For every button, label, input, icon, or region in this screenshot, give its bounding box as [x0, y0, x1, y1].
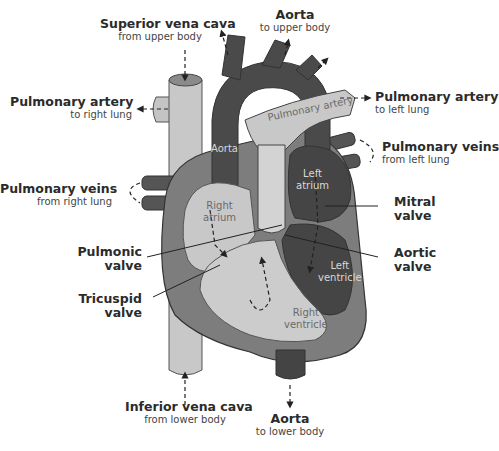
label-right-atrium: Right atrium — [203, 200, 236, 223]
label-aorta-lower: Aorta to lower body — [240, 412, 340, 438]
label-mitral-valve: Mitral valve — [394, 195, 436, 224]
label-pulmonary-veins-right: Pulmonary veins from right lung — [0, 182, 112, 208]
pulmonic-valve-line1: Pulmonic — [70, 245, 142, 259]
mitral-valve-line2: valve — [394, 209, 436, 223]
label-pulmonary-artery-right: Pulmonary artery to right lung — [10, 95, 132, 121]
pulmonic-valve-line2: valve — [70, 259, 142, 273]
superior-vena-cava-title: Superior vena cava — [100, 17, 220, 31]
tricuspid-valve-line2: valve — [70, 306, 142, 320]
aorta-lower-title: Aorta — [240, 412, 340, 426]
right-ventricle-line1: Right — [293, 307, 319, 318]
label-aortic-valve: Aortic valve — [394, 246, 436, 275]
pulmonary-artery-right-sub: to right lung — [10, 109, 132, 121]
label-aorta-upper: Aorta to upper body — [245, 8, 345, 34]
left-atrium-line2: atrium — [296, 180, 329, 191]
pulmonary-artery-left-sub: to left lung — [375, 104, 498, 116]
aortic-valve-line2: valve — [394, 260, 436, 274]
mitral-valve-line1: Mitral — [394, 195, 436, 209]
pulmonary-veins-left-sub: from left lung — [382, 154, 499, 166]
label-right-ventricle: Right ventricle — [284, 307, 328, 330]
label-left-atrium: Left atrium — [296, 168, 329, 191]
label-inferior-vena-cava: Inferior vena cava from lower body — [125, 400, 245, 426]
label-left-ventricle: Left ventricle — [318, 260, 362, 283]
pulmonary-artery-left-title: Pulmonary artery — [375, 90, 498, 104]
pulmonary-veins-left-title: Pulmonary veins — [382, 140, 499, 154]
label-aorta-inner: Aorta — [211, 143, 238, 155]
aorta-lower-sub: to lower body — [240, 426, 340, 438]
pulmonary-veins-right-sub: from right lung — [0, 196, 112, 208]
pulmonary-veins-right-title: Pulmonary veins — [0, 182, 112, 196]
label-pulmonary-veins-left: Pulmonary veins from left lung — [382, 140, 499, 166]
aortic-valve-line1: Aortic — [394, 246, 436, 260]
right-ventricle-line2: ventricle — [284, 319, 328, 330]
pulmonary-artery-right-title: Pulmonary artery — [10, 95, 132, 109]
inferior-vena-cava-title: Inferior vena cava — [125, 400, 245, 414]
left-atrium-line1: Left — [303, 168, 322, 179]
aorta-upper-title: Aorta — [245, 8, 345, 22]
inferior-vena-cava-sub: from lower body — [125, 414, 245, 426]
left-ventricle-line1: Left — [330, 260, 349, 271]
right-atrium-line1: Right — [206, 200, 232, 211]
aorta-upper-sub: to upper body — [245, 22, 345, 34]
label-pulmonic-valve: Pulmonic valve — [70, 245, 142, 274]
label-tricuspid-valve: Tricuspid valve — [70, 292, 142, 321]
superior-vena-cava-sub: from upper body — [100, 31, 220, 43]
descending-aorta — [276, 350, 305, 379]
label-pulmonary-artery-left: Pulmonary artery to left lung — [375, 90, 498, 116]
tricuspid-valve-line1: Tricuspid — [70, 292, 142, 306]
right-atrium-line2: atrium — [203, 212, 236, 223]
label-superior-vena-cava: Superior vena cava from upper body — [100, 17, 220, 43]
left-ventricle-line2: ventricle — [318, 272, 362, 283]
